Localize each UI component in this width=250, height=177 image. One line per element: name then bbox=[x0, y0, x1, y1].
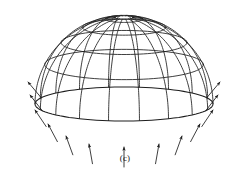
dome-wireframe-icon bbox=[0, 0, 250, 177]
dome-meridian bbox=[40, 18, 115, 109]
load-arrow-icon bbox=[35, 110, 46, 127]
dome-meridian bbox=[40, 17, 115, 98]
load-arrow-icon bbox=[202, 110, 213, 127]
dome-meridian bbox=[132, 17, 207, 98]
dome-parallel-ring bbox=[61, 30, 187, 54]
load-arrow-icon bbox=[48, 124, 57, 142]
dome-mesh bbox=[35, 15, 213, 121]
dome-meridian bbox=[132, 18, 207, 109]
figure-container: (c) bbox=[0, 0, 250, 177]
load-arrow-icon bbox=[191, 124, 200, 142]
dome-parallel-ring bbox=[45, 49, 204, 79]
figure-caption: (c) bbox=[0, 152, 250, 164]
dome-rim-ring bbox=[35, 87, 213, 121]
